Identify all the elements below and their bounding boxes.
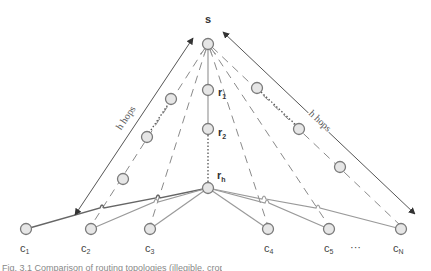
client-node-c3 <box>145 224 156 235</box>
client-node-cn <box>396 224 407 235</box>
client-node-c4 <box>263 224 274 235</box>
client-label-c5: c5 <box>324 242 334 255</box>
client-label-cn: cN <box>393 242 404 255</box>
source-label: s <box>205 13 211 25</box>
client-label-c2: c2 <box>81 242 91 255</box>
dashed-paths <box>91 47 401 226</box>
source-node <box>203 39 214 50</box>
relay-label-r1: r1 <box>218 86 226 100</box>
right-relay-node <box>252 83 263 94</box>
left-relay-node <box>142 132 153 143</box>
relay-label-r2: r2 <box>218 126 226 140</box>
figure-caption: Fig. 3.1 Comparison of routing topologie… <box>2 264 222 271</box>
client-node-c2 <box>86 224 97 235</box>
left-hop-ellipsis <box>149 103 169 133</box>
client-label-c3: c3 <box>145 242 155 255</box>
left-relay-node <box>166 94 177 105</box>
right-relay-node <box>335 162 346 173</box>
client-ellipsis: ··· <box>350 241 361 253</box>
right-hop-ellipsis <box>261 92 296 125</box>
relay-label-rh: rh <box>217 169 226 183</box>
client-label-c1: c1 <box>20 242 30 255</box>
left-span-arrow <box>75 38 193 215</box>
left-relay-node <box>118 174 129 185</box>
relay-node-rh <box>203 183 214 194</box>
relay-node-r1 <box>203 85 214 96</box>
client-node-c5 <box>324 224 335 235</box>
right-relay-node <box>294 124 305 135</box>
client-node-c1 <box>21 224 32 235</box>
client-label-c4: c4 <box>264 242 274 255</box>
rh-client-links <box>26 188 401 229</box>
client-nodes <box>21 224 407 235</box>
multicast-topology-diagram: h hops h hops s r1 r2 rh c1 c2 c3 c4 c5 … <box>0 0 431 271</box>
relay-node-r2 <box>203 124 214 135</box>
